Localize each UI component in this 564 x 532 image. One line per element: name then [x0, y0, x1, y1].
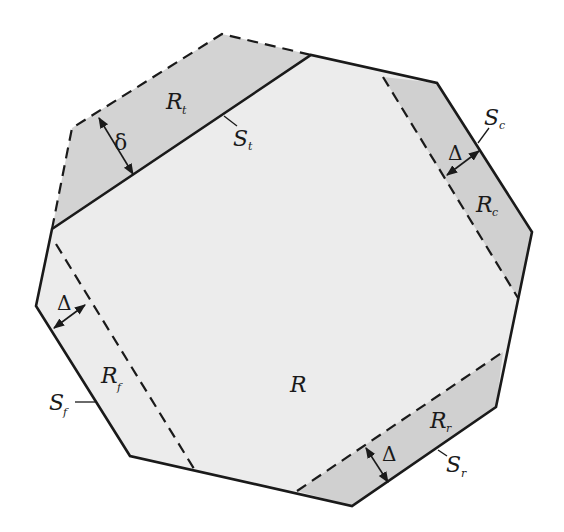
leader-S-right [478, 128, 489, 143]
label-region-bottom: R [429, 408, 447, 433]
label-segment-bottom-sub: r [461, 467, 467, 480]
label-region-bottom-sub: r [446, 422, 452, 435]
label-segment-left-sub: f [62, 406, 69, 419]
label-segment-bottom: S [446, 452, 461, 477]
label-region-main: R [289, 372, 307, 397]
label-segment-left: S [49, 390, 64, 415]
label-segment-right: S [484, 105, 499, 130]
label-region-right-sub: c [492, 206, 498, 219]
label-Delta-right: Δ [448, 141, 462, 165]
label-Delta-bottom: Δ [382, 442, 396, 466]
boundary-strips-diagram: δ Δ Δ Δ R R t R c R f R r S t S c S f S … [0, 0, 564, 532]
label-segment-top: S [233, 126, 248, 151]
label-region-right: R [475, 192, 493, 217]
label-segment-top-sub: t [248, 140, 253, 153]
label-region-top-sub: t [182, 104, 187, 117]
label-segment-right-sub: c [499, 119, 505, 132]
label-Delta-left: Δ [57, 291, 71, 315]
label-delta-top: δ [114, 130, 127, 155]
label-region-top: R [165, 89, 183, 114]
label-region-left: R [100, 363, 118, 388]
